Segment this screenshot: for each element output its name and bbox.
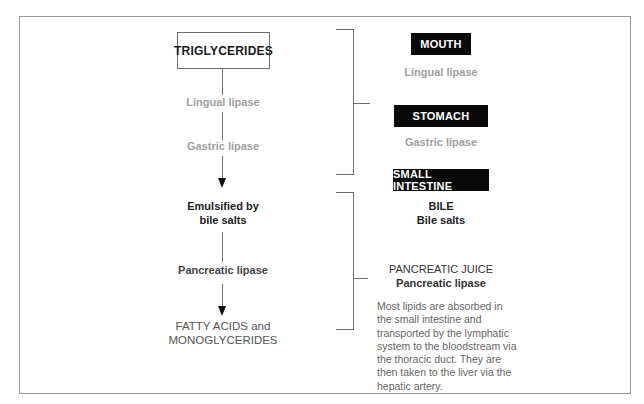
small-intestine-label: SMALL INTESTINE bbox=[393, 169, 489, 191]
lower-bracket-tick bbox=[354, 278, 368, 279]
pancreatic-juice-subtitle: Pancreatic lipase bbox=[370, 276, 512, 290]
mouth-enzyme: Lingual lipase bbox=[380, 66, 502, 78]
diagram-frame bbox=[19, 16, 631, 394]
upper-bracket-tick bbox=[354, 103, 370, 104]
emulsified-step: Emulsified by bile salts bbox=[150, 199, 296, 227]
connector-line bbox=[222, 156, 223, 178]
connector-line bbox=[222, 232, 223, 262]
gastric-lipase-step: Gastric lipase bbox=[150, 140, 296, 152]
pancreatic-juice-title: PANCREATIC JUICE bbox=[370, 262, 512, 276]
emulsified-line1: Emulsified by bbox=[150, 199, 296, 213]
mouth-label: MOUTH bbox=[411, 33, 471, 55]
upper-bracket bbox=[336, 29, 354, 175]
absorption-note: Most lipids are absorbed in the small in… bbox=[377, 300, 517, 393]
bile-title: BILE bbox=[380, 199, 502, 213]
stomach-label: STOMACH bbox=[394, 105, 488, 127]
bile-subtitle: Bile salts bbox=[380, 213, 502, 227]
triglycerides-box: TRIGLYCERIDES bbox=[177, 32, 270, 69]
end-products-line1: FATTY ACIDS and bbox=[150, 319, 296, 333]
lingual-lipase-step: Lingual lipase bbox=[150, 96, 296, 108]
connector-line bbox=[222, 69, 223, 95]
bile-block: BILE Bile salts bbox=[380, 199, 502, 227]
arrow-down-icon bbox=[218, 306, 226, 316]
stomach-enzyme: Gastric lipase bbox=[380, 136, 502, 148]
connector-line bbox=[222, 284, 223, 307]
pancreatic-lipase-step: Pancreatic lipase bbox=[150, 264, 296, 276]
arrow-down-icon bbox=[218, 178, 226, 188]
lower-bracket bbox=[336, 192, 354, 330]
end-products: FATTY ACIDS and MONOGLYCERIDES bbox=[150, 319, 296, 347]
emulsified-line2: bile salts bbox=[150, 213, 296, 227]
connector-line bbox=[222, 112, 223, 140]
pancreatic-juice-block: PANCREATIC JUICE Pancreatic lipase bbox=[370, 262, 512, 290]
end-products-line2: MONOGLYCERIDES bbox=[150, 333, 296, 347]
